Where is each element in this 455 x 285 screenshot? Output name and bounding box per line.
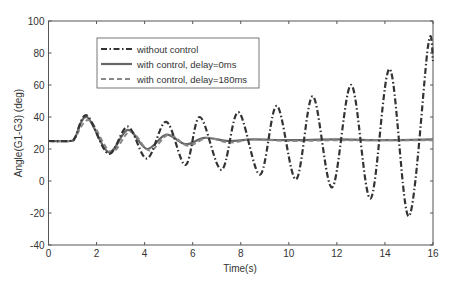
- x-tick-label: 14: [379, 248, 391, 259]
- y-axis-label: Angle(G1-G3) (deg): [13, 89, 24, 177]
- x-tick-label: 0: [46, 248, 52, 259]
- x-tick-label: 16: [427, 248, 439, 259]
- y-tick-label: -40: [30, 240, 45, 251]
- y-tick-label: 40: [33, 112, 45, 123]
- y-tick-label: 0: [39, 176, 45, 187]
- line-chart: 0246810121416-40-20020406080100 without …: [0, 0, 455, 285]
- y-tick-label: 60: [33, 80, 45, 91]
- y-tick-label: -20: [30, 208, 45, 219]
- x-tick-label: 6: [190, 248, 196, 259]
- series-line: [49, 120, 434, 152]
- x-tick-label: 4: [142, 248, 148, 259]
- x-tick-label: 12: [331, 248, 343, 259]
- legend-label: with control, delay=0ms: [136, 59, 237, 70]
- y-tick-label: 100: [28, 16, 45, 27]
- legend-label: without control: [136, 44, 198, 55]
- y-tick-label: 80: [33, 48, 45, 59]
- x-tick-label: 10: [283, 248, 295, 259]
- y-tick-label: 20: [33, 144, 45, 155]
- x-tick-label: 8: [238, 248, 244, 259]
- legend: without controlwith control, delay=0mswi…: [97, 38, 259, 88]
- x-axis-label: Time(s): [223, 263, 257, 274]
- x-tick-label: 2: [94, 248, 100, 259]
- legend-label: with control, delay=180ms: [136, 74, 247, 85]
